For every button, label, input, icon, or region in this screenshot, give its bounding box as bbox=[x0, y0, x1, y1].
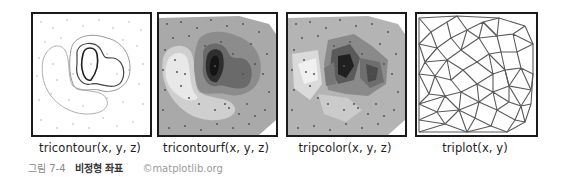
caption-number: 그림 7-4 bbox=[28, 163, 66, 174]
panel-label-tricontour: tricontour(x, y, z) bbox=[20, 141, 160, 155]
triplot-plot bbox=[415, 12, 538, 137]
caption-title: 비정형 좌표 bbox=[75, 163, 123, 174]
panel-label-tripcolor: tripcolor(x, y, z) bbox=[275, 141, 415, 155]
panel-label-tricontourf: tricontourf(x, y, z) bbox=[146, 141, 286, 155]
tricontourf-plot bbox=[157, 12, 278, 137]
tricontour-plot bbox=[31, 12, 152, 137]
tripcolor-plot bbox=[286, 12, 407, 137]
tripcolor-graphic bbox=[288, 14, 405, 135]
triplot-graphic bbox=[417, 14, 536, 135]
triangle-mesh bbox=[419, 16, 533, 132]
tricontourf-graphic bbox=[159, 14, 276, 135]
caption-credit: ©matplotlib.org bbox=[142, 163, 222, 174]
tricontour-graphic bbox=[33, 14, 150, 135]
panel-label-triplot: triplot(x, y) bbox=[405, 141, 545, 155]
figure-caption: 그림 7-4 비정형 좌표 ©matplotlib.org bbox=[28, 160, 223, 175]
